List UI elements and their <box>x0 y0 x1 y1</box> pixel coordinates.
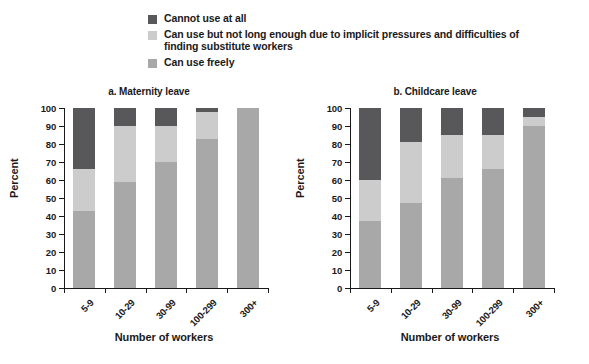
x-axis-tick <box>350 288 351 293</box>
y-axis-tick <box>345 234 350 235</box>
y-axis-line <box>64 108 65 288</box>
y-axis-tick-label: 30 <box>332 229 342 240</box>
y-axis-tick-label: 20 <box>46 247 56 258</box>
bar-segment <box>441 135 463 178</box>
bar-segment <box>441 108 463 135</box>
legend-label-cannot-use: Cannot use at all <box>164 12 246 25</box>
bar-segment <box>114 182 136 288</box>
bar-5-9 <box>73 108 95 288</box>
y-axis-tick-label: 50 <box>46 193 56 204</box>
legend-label-limited-use: Can use but not long enough due to impli… <box>164 28 548 53</box>
x-axis-title-maternity: Number of workers <box>44 331 284 343</box>
x-axis-tick <box>105 288 106 293</box>
bar-5-9 <box>359 108 381 288</box>
bar-100-299 <box>482 108 504 288</box>
y-axis-tick <box>345 180 350 181</box>
bar-300+ <box>237 108 259 288</box>
bar-segment <box>73 108 95 169</box>
y-axis-tick-label: 100 <box>41 103 56 114</box>
bar-10-29 <box>114 108 136 288</box>
y-axis-tick <box>59 144 64 145</box>
y-axis-tick-label: 20 <box>332 247 342 258</box>
legend-item-limited-use: Can use but not long enough due to impli… <box>148 28 548 53</box>
bar-segment <box>482 135 504 169</box>
y-axis-tick-label: 60 <box>332 175 342 186</box>
panel-childcare-leave: b. Childcare leave 010203040506070809010… <box>300 86 570 364</box>
x-axis-tick <box>513 288 514 293</box>
legend-swatch-free-use <box>148 59 157 68</box>
bar-100-299 <box>196 108 218 288</box>
bar-segment <box>155 126 177 162</box>
x-axis-tick <box>186 288 187 293</box>
panel-maternity-leave: a. Maternity leave 010203040506070809010… <box>14 86 284 364</box>
x-axis-line <box>64 288 268 289</box>
y-axis-tick <box>345 126 350 127</box>
y-axis-tick <box>59 162 64 163</box>
legend-label-free-use: Can use freely <box>164 56 234 69</box>
y-axis-tick-label: 90 <box>46 121 56 132</box>
bar-segment <box>196 112 218 139</box>
bar-segment <box>114 126 136 182</box>
bar-segment <box>482 169 504 288</box>
x-axis-tick <box>391 288 392 293</box>
bar-segment <box>237 108 259 288</box>
y-axis-tick <box>59 126 64 127</box>
bar-segment <box>155 162 177 288</box>
legend-swatch-cannot-use <box>148 15 157 24</box>
x-axis-tick <box>432 288 433 293</box>
chart-legend: Cannot use at all Can use but not long e… <box>148 12 548 71</box>
bar-segment <box>400 142 422 203</box>
y-axis-tick <box>345 108 350 109</box>
y-axis-tick <box>59 216 64 217</box>
bar-segment <box>359 180 381 221</box>
bar-segment <box>482 108 504 135</box>
plot-area-childcare: 01020304050607080901005-910-2930-99100-2… <box>350 108 554 288</box>
x-axis-tick <box>472 288 473 293</box>
bar-segment <box>523 126 545 288</box>
x-axis-tick <box>554 288 555 293</box>
bar-10-29 <box>400 108 422 288</box>
y-axis-tick <box>59 270 64 271</box>
bar-segment <box>359 221 381 288</box>
y-axis-tick <box>59 252 64 253</box>
y-axis-tick-label: 10 <box>332 265 342 276</box>
y-axis-tick-label: 70 <box>46 157 56 168</box>
y-axis-tick-label: 10 <box>46 265 56 276</box>
y-axis-tick-label: 100 <box>327 103 342 114</box>
bar-segment <box>114 108 136 126</box>
charts-container: a. Maternity leave 010203040506070809010… <box>0 86 589 364</box>
legend-item-free-use: Can use freely <box>148 56 548 69</box>
y-axis-tick <box>345 216 350 217</box>
bar-segment <box>523 108 545 117</box>
x-axis-tick <box>64 288 65 293</box>
bar-segment <box>400 203 422 288</box>
panel-title-maternity: a. Maternity leave <box>14 86 284 97</box>
bar-30-99 <box>441 108 463 288</box>
y-axis-tick-label: 0 <box>51 283 56 294</box>
y-axis-tick-label: 0 <box>337 283 342 294</box>
panel-title-childcare: b. Childcare leave <box>300 86 570 97</box>
y-axis-tick <box>59 198 64 199</box>
bar-segment <box>196 139 218 288</box>
y-axis-tick-label: 80 <box>46 139 56 150</box>
y-axis-tick <box>345 162 350 163</box>
y-axis-tick-label: 80 <box>332 139 342 150</box>
x-axis-tick <box>146 288 147 293</box>
x-axis-title-childcare: Number of workers <box>330 331 570 343</box>
bar-segment <box>400 108 422 142</box>
y-axis-tick <box>345 252 350 253</box>
y-axis-line <box>350 108 351 288</box>
bar-segment <box>359 108 381 180</box>
bar-30-99 <box>155 108 177 288</box>
bar-segment <box>73 211 95 288</box>
y-axis-tick <box>345 270 350 271</box>
legend-item-cannot-use: Cannot use at all <box>148 12 548 25</box>
y-axis-tick-label: 60 <box>46 175 56 186</box>
x-axis-tick <box>227 288 228 293</box>
y-axis-title-childcare: Percent <box>294 158 306 198</box>
y-axis-title-maternity: Percent <box>8 158 20 198</box>
bar-segment <box>73 169 95 210</box>
bar-segment <box>523 117 545 126</box>
x-axis-line <box>350 288 554 289</box>
y-axis-tick <box>345 198 350 199</box>
